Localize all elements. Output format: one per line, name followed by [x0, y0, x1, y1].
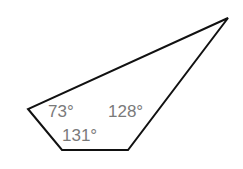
quadrilateral-diagram: 73° 128° 131°: [0, 0, 243, 169]
angle-label-131: 131°: [62, 126, 97, 145]
angle-label-128: 128°: [108, 102, 143, 121]
quadrilateral-shape: [28, 18, 228, 150]
angle-label-73: 73°: [48, 102, 74, 121]
